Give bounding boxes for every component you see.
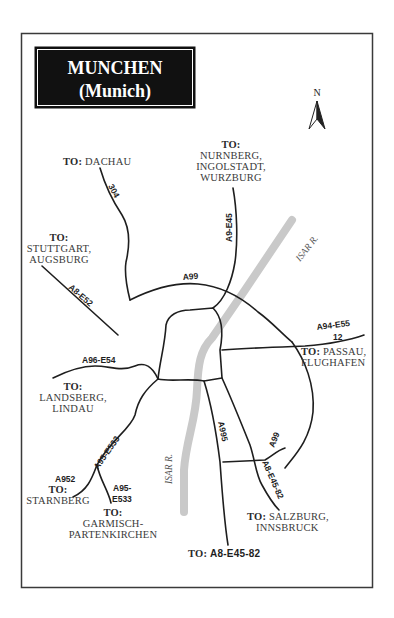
title-line-1: MUNCHEN (68, 58, 163, 78)
svg-text:INNSBRUCK: INNSBRUCK (256, 522, 319, 533)
svg-text:TO:A8-E45-82: TO:A8-E45-82 (188, 548, 260, 559)
svg-text:STARNBERG: STARNBERG (26, 495, 90, 506)
label-a96-e54: A96-E54 (82, 355, 116, 365)
svg-text:WURZBURG: WURZBURG (200, 172, 262, 183)
svg-text:LANDSBERG,: LANDSBERG, (39, 392, 107, 403)
svg-text:NURNBERG,: NURNBERG, (200, 150, 262, 161)
label-a9-e45: A9-E45 (224, 213, 234, 242)
isar-label-lower: ISAR R. (164, 454, 174, 485)
svg-text:PARTENKIRCHEN: PARTENKIRCHEN (69, 529, 158, 540)
dest-a8-south: TO:A8-E45-82 (188, 548, 260, 559)
svg-text:TO:: TO: (48, 484, 67, 495)
label-a952: A952 (55, 474, 76, 484)
dest-dachau: TO:DACHAU (63, 156, 131, 167)
svg-text:GARMISCH-: GARMISCH- (83, 518, 144, 529)
svg-text:TO:DACHAU: TO:DACHAU (63, 156, 131, 167)
label-a95-split-2: E533 (112, 494, 132, 504)
svg-text:LINDAU: LINDAU (52, 403, 94, 414)
svg-text:TO:: TO: (221, 139, 240, 150)
svg-text:TO:: TO: (49, 232, 68, 243)
munich-road-map: MUNCHEN (Munich) N ISAR R. ISAR R. 304 A… (0, 0, 394, 618)
svg-text:AUGSBURG: AUGSBURG (29, 254, 89, 265)
svg-text:TO:PASSAU,: TO:PASSAU, (301, 346, 366, 357)
svg-text:STUTTGART,: STUTTGART, (27, 243, 91, 254)
svg-text:TO:SALZBURG,: TO:SALZBURG, (247, 511, 329, 522)
svg-text:FLUGHAFEN: FLUGHAFEN (301, 357, 365, 368)
title-box: MUNCHEN (Munich) (35, 47, 195, 108)
svg-text:INGOLSTADT,: INGOLSTADT, (196, 161, 266, 172)
dest-passau: TO:PASSAU, FLUGHAFEN (301, 346, 366, 368)
label-a94-num: 12 (333, 332, 343, 342)
label-a99-north: A99 (182, 271, 199, 282)
svg-text:TO:: TO: (63, 381, 82, 392)
svg-text:TO:: TO: (103, 507, 122, 518)
dest-salzburg: TO:SALZBURG, INNSBRUCK (247, 511, 329, 533)
label-a95-split-1: A95- (113, 483, 132, 493)
title-line-2: (Munich) (79, 81, 151, 102)
north-label: N (313, 87, 320, 98)
